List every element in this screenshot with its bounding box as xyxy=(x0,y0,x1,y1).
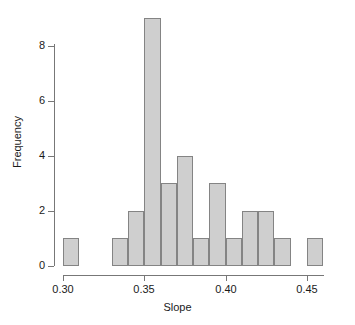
y-axis-tick xyxy=(48,211,54,212)
x-axis-tick-label: 0.35 xyxy=(119,284,169,295)
y-axis-tick-label: 2 xyxy=(5,205,45,216)
x-axis-tick-label: 0.45 xyxy=(282,284,332,295)
x-axis-tick xyxy=(226,275,227,281)
histogram-bar xyxy=(193,238,209,266)
histogram-bar xyxy=(112,238,128,266)
histogram-bar xyxy=(177,156,193,266)
plot-panel xyxy=(63,18,323,266)
x-axis-tick xyxy=(63,275,64,281)
histogram-bar xyxy=(258,211,274,266)
x-axis-tick-label: 0.40 xyxy=(201,284,251,295)
histogram-chart: 02468 Slope Frequency 0.300.350.400.45 xyxy=(0,0,355,325)
y-axis-tick xyxy=(48,156,54,157)
histogram-bar xyxy=(161,183,177,266)
y-axis-tick-label: 8 xyxy=(5,40,45,51)
y-axis-tick xyxy=(48,101,54,102)
x-axis-title: Slope xyxy=(0,301,355,313)
y-axis-tick xyxy=(48,46,54,47)
histogram-bar xyxy=(242,211,258,266)
y-axis-line xyxy=(54,44,55,266)
x-axis-line xyxy=(63,275,324,276)
histogram-bar xyxy=(63,238,79,266)
x-axis-tick xyxy=(144,275,145,281)
x-axis-tick-label: 0.30 xyxy=(38,284,88,295)
histogram-bar xyxy=(307,238,323,266)
histogram-bar xyxy=(209,183,225,266)
y-axis-tick xyxy=(48,266,54,267)
histogram-bar xyxy=(226,238,242,266)
histogram-bar xyxy=(144,18,160,266)
y-axis-tick-label: 0 xyxy=(5,260,45,271)
histogram-bar xyxy=(128,211,144,266)
x-axis-tick xyxy=(307,275,308,281)
y-axis-title: Frequency xyxy=(11,82,23,202)
histogram-bar xyxy=(274,238,290,266)
